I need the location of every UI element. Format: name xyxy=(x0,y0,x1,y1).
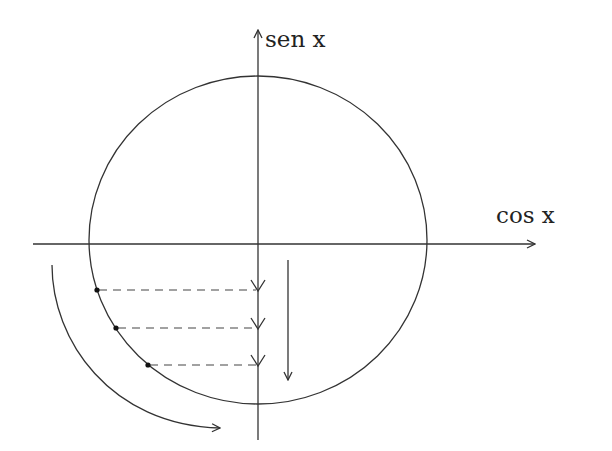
unit-circle-diagram: sen x cos x xyxy=(0,0,612,451)
cos-axis-label: cos x xyxy=(496,204,555,227)
rotation-arrow xyxy=(52,265,220,428)
projection-lines xyxy=(99,290,256,365)
sen-axis-label: sen x xyxy=(265,28,326,51)
